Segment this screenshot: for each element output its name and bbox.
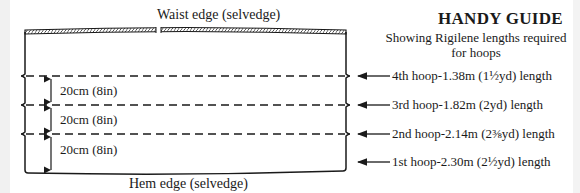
hoop-label-2nd: 2nd hoop-2.14m (2⅜yd) length <box>392 127 555 140</box>
spacing-label-3: 20cm (8in) <box>60 143 117 156</box>
waist-edge-label: Waist edge (selvedge) <box>157 8 280 22</box>
spacing-label-2: 20cm (8in) <box>60 113 117 126</box>
guide-subtitle: Showing Rigilene lengths required for ho… <box>381 30 571 60</box>
hoop-pointer-arrows <box>358 76 390 162</box>
hem-edge-label: Hem edge (selvedge) <box>129 177 248 191</box>
waist-selvedge-band <box>25 26 346 34</box>
hoop-label-1st: 1st hoop-2.30m (2½yd) length <box>392 155 551 168</box>
spacing-label-1: 20cm (8in) <box>60 84 117 97</box>
hoop-label-4th: 4th hoop-1.38m (1½yd) length <box>392 69 552 82</box>
hoop-label-3rd: 3rd hoop-1.82m (2yd) length <box>392 98 543 111</box>
guide-title: HANDY GUIDE <box>438 10 563 27</box>
